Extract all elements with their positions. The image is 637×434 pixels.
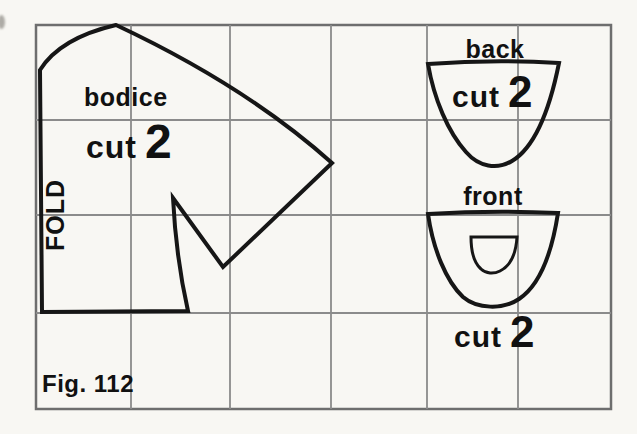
bodice-pattern-outline [40, 25, 332, 312]
back-cut-word: cut [452, 82, 500, 112]
back-cut-label: cut 2 [452, 70, 532, 114]
front-label: front [458, 184, 528, 209]
pattern-layout-figure: bodice cut 2 FOLD back cut 2 front cut 2… [0, 0, 637, 434]
front-cut-word: cut [454, 322, 502, 352]
front-cut-quantity: 2 [510, 310, 534, 354]
bodice-cut-label: cut 2 [86, 118, 172, 166]
fold-edge-label: FOLD [42, 179, 68, 251]
back-label: back [460, 37, 530, 62]
bodice-label: bodice [84, 85, 168, 110]
front-neck-notch-outline [471, 237, 517, 273]
cutting-layout-diagram [0, 0, 637, 434]
front-facing-outline [428, 212, 558, 307]
bodice-cut-quantity: 2 [145, 118, 172, 166]
bodice-cut-word: cut [86, 131, 137, 163]
figure-caption: Fig. 112 [42, 372, 134, 396]
back-cut-quantity: 2 [508, 70, 532, 114]
front-cut-label: cut 2 [454, 310, 534, 354]
